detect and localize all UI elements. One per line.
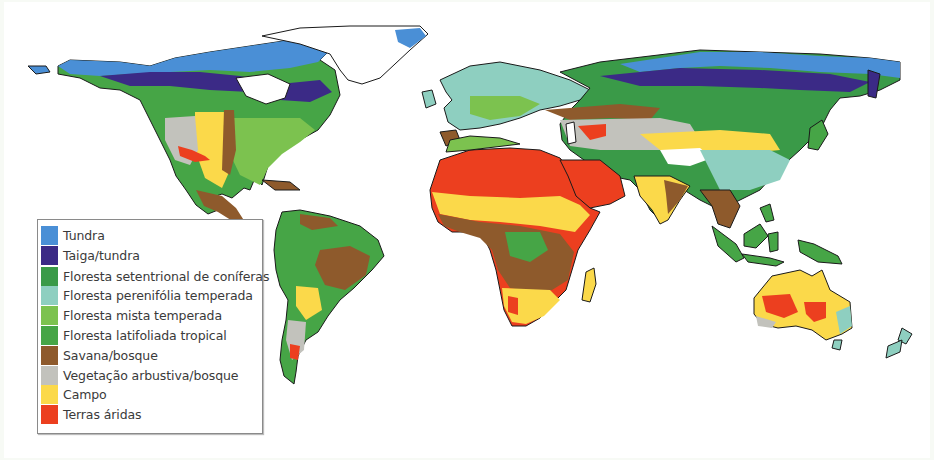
legend-item-savanna: Savana/bosque xyxy=(41,346,158,365)
australia xyxy=(754,270,852,350)
legend-label: Terras áridas xyxy=(63,407,142,422)
legend-label: Campo xyxy=(63,387,107,402)
legend-swatch xyxy=(41,326,58,345)
legend-item-grassland: Campo xyxy=(41,385,107,404)
legend-label: Floresta setentrional de coníferas xyxy=(63,269,269,284)
legend-item-shrubland: Vegetação arbustiva/bosque xyxy=(41,366,238,385)
legend-item-arid-lands: Terras áridas xyxy=(41,405,142,424)
asia xyxy=(545,50,900,228)
legend-swatch xyxy=(41,267,58,286)
legend-swatch xyxy=(41,306,58,325)
legend-swatch xyxy=(41,246,58,265)
legend-label: Floresta latifoliada tropical xyxy=(63,328,227,343)
legend-label: Savana/bosque xyxy=(63,348,158,363)
legend-swatch xyxy=(41,346,58,365)
legend-label: Floresta perenifólia temperada xyxy=(63,288,253,303)
legend-swatch xyxy=(41,226,58,245)
legend-label: Floresta mista temperada xyxy=(63,308,222,323)
legend-label: Vegetação arbustiva/bosque xyxy=(63,368,238,383)
legend-item-taiga-tundra: Taiga/tundra xyxy=(41,246,140,265)
new-zealand xyxy=(886,328,912,358)
legend-swatch xyxy=(41,405,58,424)
map-legend: Tundra Taiga/tundra Floresta setentriona… xyxy=(37,219,263,434)
legend-swatch xyxy=(41,366,58,385)
legend-item-boreal-forest: Floresta setentrional de coníferas xyxy=(41,267,269,286)
legend-swatch xyxy=(41,385,58,404)
legend-item-tropical-broadleaf-forest: Floresta latifoliada tropical xyxy=(41,326,227,345)
legend-item-tundra: Tundra xyxy=(41,226,105,245)
legend-swatch xyxy=(41,286,58,305)
legend-item-temperate-evergreen-forest: Floresta perenifólia temperada xyxy=(41,286,253,305)
legend-item-temperate-mixed-forest: Floresta mista temperada xyxy=(41,306,222,325)
legend-label: Taiga/tundra xyxy=(63,248,140,263)
legend-label: Tundra xyxy=(63,228,105,243)
south-america xyxy=(274,210,384,384)
